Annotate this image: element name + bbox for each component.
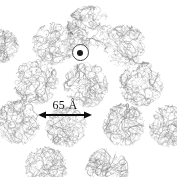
particle-mid-right [117,60,165,108]
particle-lower-right [101,102,147,148]
protein-lattice-figure: 65 Å [0,0,177,177]
axis-marker-dot [77,50,83,56]
scale-bar-arrow-icon [38,110,92,120]
particle-top-left-far [0,28,20,64]
particle-bottom-left [23,145,69,177]
particle-right-edge [147,103,177,149]
particle-left-edge [0,98,42,146]
axis-marker-icon [72,44,89,61]
particle-bottom-right [84,147,130,177]
